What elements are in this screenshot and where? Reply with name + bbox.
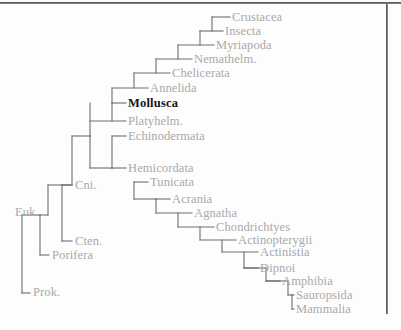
taxon-label-tunicata: Tunicata (150, 176, 194, 189)
taxon-label-cten: Cten. (75, 235, 102, 248)
taxon-label-annelida: Annelida (150, 82, 197, 95)
taxon-label-myriapoda: Myriapoda (216, 39, 272, 52)
taxon-label-chondrichtyes: Chondrichtyes (216, 221, 290, 234)
cladogram-plot: CrustaceaInsectaMyriapodaNemathelm.Cheli… (0, 0, 401, 330)
taxon-label-dipnoi: Dipnoi (260, 262, 295, 275)
cladogram-branches (0, 0, 401, 330)
taxon-label-chelicerata: Chelicerata (172, 67, 230, 80)
taxon-label-cni: Cni. (75, 179, 97, 192)
taxon-label-mammalia: Mammalia (296, 303, 351, 316)
taxon-label-porifera: Porifera (52, 249, 93, 262)
taxon-label-agnatha: Agnatha (194, 207, 237, 220)
taxon-label-hemicordata: Hemicordata (128, 162, 194, 175)
taxon-label-crustacea: Crustacea (232, 11, 282, 24)
taxon-label-actinistia: Actinistia (260, 246, 310, 259)
taxon-label-platyhelm: Platyhelm. (128, 115, 183, 128)
taxon-label-echinodermata: Echinodermata (128, 130, 205, 143)
taxon-label-acrania: Acrania (172, 193, 212, 206)
taxon-label-sauropsida: Sauropsida (296, 289, 353, 302)
taxon-label-insecta: Insecta (225, 25, 261, 38)
taxon-label-nemathelm: Nemathelm. (194, 53, 256, 66)
figure-canvas: CrustaceaInsectaMyriapodaNemathelm.Cheli… (0, 0, 401, 330)
taxon-label-prok: Prok. (33, 286, 60, 299)
taxon-label-amphibia: Amphibia (282, 275, 333, 288)
taxon-label-mollusca: Mollusca (128, 97, 178, 110)
taxon-label-euk: Euk. (15, 206, 39, 219)
